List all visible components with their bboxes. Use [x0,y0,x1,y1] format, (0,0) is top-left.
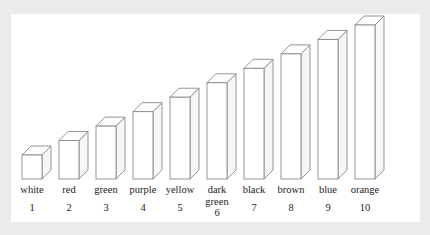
bar-8 [281,45,310,179]
bar-4 [133,103,162,179]
bar-side-face [264,59,273,179]
bar-front-face [59,141,79,179]
bar-side-face [153,103,162,179]
bar-9 [318,30,347,179]
bar-front-face [133,112,153,179]
bar-front-face [170,97,190,179]
bar-side-face [116,117,125,179]
chart-panel: white1red2green3purple4yellow5dark green… [11,14,420,222]
bar-front-face [281,54,301,179]
plot-area: white1red2green3purple4yellow5dark green… [11,14,420,222]
bar-7 [244,59,273,179]
figure-root: white1red2green3purple4yellow5dark green… [0,0,430,235]
page-bleed-strip [0,0,430,7]
bar-name-label: orange [337,184,393,196]
bar-3 [96,117,125,179]
bar-front-face [318,39,338,179]
bar-side-face [301,45,310,179]
bar-2 [59,132,88,179]
bar-side-face [375,16,384,179]
bar-6 [207,74,236,179]
bar-number-label: 10 [337,202,393,214]
bar-front-face [244,68,264,179]
bar-front-face [355,25,375,179]
bar-1 [22,146,51,179]
bar-side-face [190,88,199,179]
bar-front-face [96,126,116,179]
bar-side-face [338,30,347,179]
bar-5 [170,88,199,179]
bars-group [22,16,384,179]
bar-front-face [22,155,42,179]
bar-10 [355,16,384,179]
bar-side-face [227,74,236,179]
bar-label-group-10: orange10 [337,184,393,214]
bar-front-face [207,83,227,179]
